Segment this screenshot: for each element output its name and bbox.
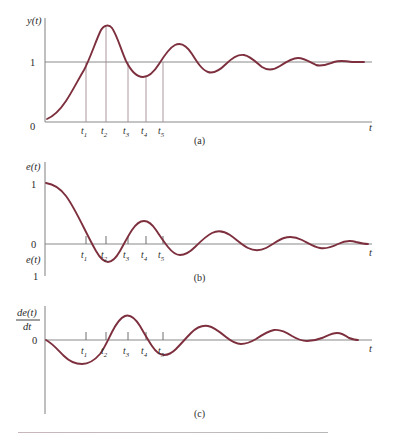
- plot-c-xtick-t5: t5: [158, 346, 165, 358]
- plot-a-svg: y(t) 1 0 t t1 t2 t3 t4 t5: [0, 0, 399, 155]
- plot-b-xtick-t2: t2: [101, 250, 108, 262]
- plot-b-xtick-t1: t1: [81, 250, 87, 262]
- plot-b-y-axis-label-bottom: e(t): [26, 254, 41, 266]
- plot-a-ytick-1: 1: [30, 57, 35, 68]
- plot-panel-c: de(t) dt 0 t t1 t2 t3 t4 t5: [0, 292, 399, 442]
- plot-b-curve: [46, 183, 368, 262]
- plot-b-caption: (b): [0, 272, 399, 283]
- plot-c-caption: (c): [0, 408, 399, 419]
- figure-container: y(t) 1 0 t t1 t2 t3 t4 t5 (a): [0, 0, 399, 442]
- plot-b-xtick-t4: t4: [141, 250, 148, 262]
- plot-c-xtick-t1: t1: [81, 346, 87, 358]
- plot-c-xtick-t3: t3: [123, 346, 130, 358]
- plot-c-xtick-t4: t4: [141, 346, 148, 358]
- plot-panel-a: y(t) 1 0 t t1 t2 t3 t4 t5: [0, 0, 399, 155]
- plot-a-x-axis-label: t: [369, 122, 373, 133]
- plot-a-ytick-0: 0: [30, 121, 35, 132]
- plot-b-x-axis-label: t: [369, 247, 373, 258]
- bottom-divider-rule: [18, 432, 328, 433]
- plot-b-ytick-1: 1: [31, 179, 36, 190]
- plot-a-caption: (a): [0, 135, 399, 146]
- plot-c-y-axis-label-numerator: de(t): [17, 307, 37, 319]
- plot-c-svg: de(t) dt 0 t t1 t2 t3 t4 t5: [0, 292, 399, 442]
- plot-b-ytick-0: 0: [31, 239, 36, 250]
- plot-a-curve: [47, 26, 364, 119]
- plot-c-ytick-0: 0: [32, 335, 37, 346]
- plot-b-xtick-t5: t5: [158, 250, 165, 262]
- plot-c-y-axis-label-denominator: dt: [23, 321, 32, 332]
- plot-b-y-axis-label-top: e(t): [26, 161, 41, 173]
- plot-a-y-axis-label: y(t): [26, 15, 42, 27]
- plot-c-x-axis-label: t: [369, 343, 373, 354]
- plot-b-xtick-t3: t3: [123, 250, 130, 262]
